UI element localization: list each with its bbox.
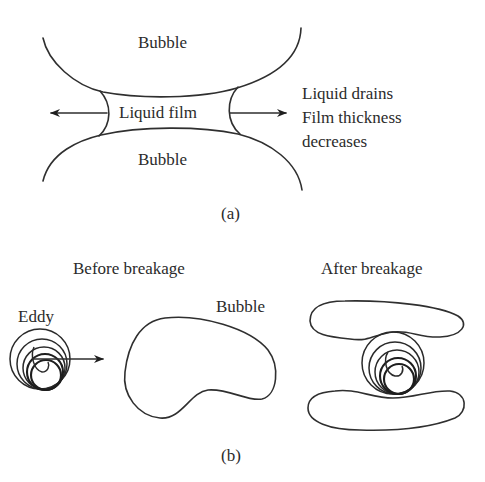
bubble-label: Bubble [216,297,265,317]
film-right-edge [229,87,240,134]
upper-bubble-label: Bubble [138,33,187,53]
eddy-label: Eddy [18,307,54,327]
bubble-breakage-figure: Bubble Liquid film Bubble Liquid drains … [0,0,485,482]
annotation-line-3: decreases [302,130,402,154]
lower-bubble-label: Bubble [138,150,187,170]
panel-b-caption: (b) [221,446,241,466]
annotation-line-2: Film thickness [302,106,402,130]
after-breakage-title: After breakage [321,259,422,279]
annotation-line-1: Liquid drains [302,82,402,106]
bubble-fragment-top [310,301,464,340]
drainage-annotation: Liquid drains Film thickness decreases [302,82,402,154]
eddy-coil-right [362,332,424,394]
bubble-outline [125,317,276,418]
figure-drawing [0,0,485,482]
before-breakage-title: Before breakage [73,259,185,279]
panel-b [10,301,464,430]
panel-a-caption: (a) [221,204,240,224]
bubble-fragment-bottom [308,390,464,430]
liquid-film-label: Liquid film [119,103,197,123]
